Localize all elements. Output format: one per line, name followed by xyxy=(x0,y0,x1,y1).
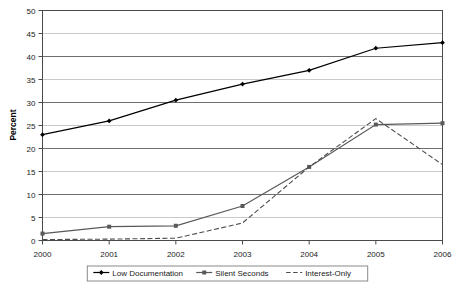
y-tick-label: 25 xyxy=(27,122,36,131)
legend-label: Silent Seconds xyxy=(215,269,268,278)
legend-label: Interest-Only xyxy=(305,269,351,278)
legend-items: Low DocumentationSilent SecondsInterest-… xyxy=(93,269,351,278)
x-tick-label: 2002 xyxy=(167,250,185,259)
x-tick-label: 2006 xyxy=(434,250,452,259)
x-tick-label: 2001 xyxy=(100,250,118,259)
y-tick-label: 0 xyxy=(31,237,36,246)
y-tick-label: 15 xyxy=(27,168,36,177)
x-tick-label: 2005 xyxy=(367,250,385,259)
y-tick-label: 10 xyxy=(27,191,36,200)
series-marker xyxy=(174,224,178,228)
x-tick-label: 2004 xyxy=(300,250,318,259)
x-tick-label: 2000 xyxy=(34,250,52,259)
series-marker xyxy=(441,121,445,125)
legend-label: Low Documentation xyxy=(112,269,183,278)
x-tick-label: 2003 xyxy=(234,250,252,259)
series-marker xyxy=(374,123,378,127)
y-tick-label: 40 xyxy=(27,53,36,62)
chart-background xyxy=(0,0,455,294)
legend-marker xyxy=(202,271,206,275)
y-tick-label: 50 xyxy=(27,7,36,16)
y-axis-title: Percent xyxy=(8,109,18,140)
series-marker xyxy=(241,204,245,208)
y-tick-label: 45 xyxy=(27,30,36,39)
y-tick-label: 30 xyxy=(27,99,36,108)
y-tick-label: 5 xyxy=(31,214,36,223)
series-marker xyxy=(41,232,45,236)
y-tick-label: 35 xyxy=(27,76,36,85)
chart-container: 05101520253035404550 2000200120022003200… xyxy=(0,0,455,294)
y-tick-label: 20 xyxy=(27,145,36,154)
chart-legend: Low DocumentationSilent SecondsInterest-… xyxy=(87,266,367,281)
line-chart: 05101520253035404550 2000200120022003200… xyxy=(0,0,455,294)
series-marker xyxy=(107,225,111,229)
